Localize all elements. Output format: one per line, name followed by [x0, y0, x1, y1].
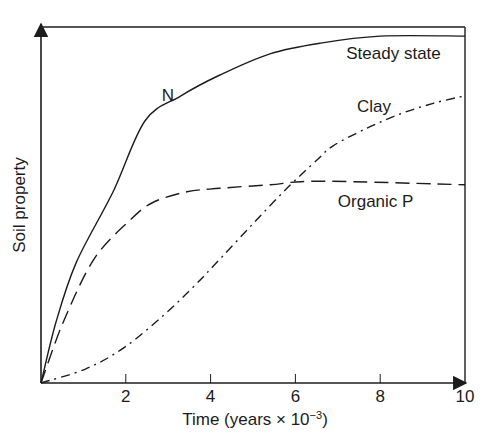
x-tick-label: 8: [375, 388, 384, 405]
label-clay: Clay: [357, 98, 391, 115]
x-axis-label-exponent: −3: [310, 409, 323, 421]
y-axis-label: Soil property: [10, 157, 30, 252]
x-axis-label: Time (years × 10−3): [182, 409, 328, 430]
series-organic-p: [41, 181, 465, 383]
x-tick-label: 10: [456, 388, 475, 405]
x-tick-label: 4: [206, 388, 215, 405]
label-steady-state: Steady state: [346, 45, 441, 62]
label-organic-p: Organic P: [338, 193, 414, 210]
series-clay: [41, 96, 463, 383]
x-axis-label-main: Time (years × 10: [182, 410, 309, 429]
x-tick-label: 6: [291, 388, 300, 405]
x-axis-label-close: ): [322, 410, 328, 429]
x-axis-ticks: [126, 374, 380, 383]
label-n: N: [162, 87, 174, 104]
x-tick-label: 2: [121, 388, 130, 405]
chart-canvas: [0, 0, 491, 448]
